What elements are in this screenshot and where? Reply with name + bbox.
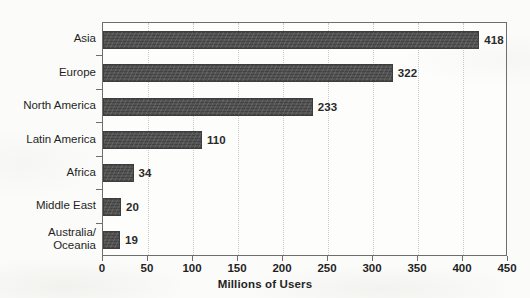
bar-value-label: 20 (126, 201, 139, 213)
bar (103, 31, 479, 49)
bar (103, 131, 202, 149)
x-axis-tick-label: 300 (362, 262, 381, 274)
x-axis-tick-label: 250 (317, 262, 336, 274)
category-label: Europe (0, 66, 96, 79)
x-axis-tick-label: 400 (452, 262, 471, 274)
bar-value-label: 322 (398, 67, 418, 79)
x-axis-tick (102, 256, 103, 261)
y-axis-tick (96, 189, 102, 190)
bar-row: 20 (103, 198, 508, 216)
x-axis-tick-label: 200 (272, 262, 291, 274)
bar (103, 231, 120, 249)
x-axis-tick (462, 256, 463, 261)
y-axis-tick (96, 156, 102, 157)
y-axis-tick (96, 223, 102, 224)
x-axis-tick-label: 150 (227, 262, 246, 274)
bar-row: 322 (103, 64, 508, 82)
bar-value-label: 110 (207, 134, 226, 146)
x-axis-title: Millions of Users (0, 278, 530, 290)
x-axis-tick (327, 256, 328, 261)
bar (103, 164, 134, 182)
bar-value-label: 233 (318, 101, 338, 113)
bar-row: 418 (103, 31, 508, 49)
bar-row: 34 (103, 164, 508, 182)
bar (103, 64, 393, 82)
x-axis-tick-label: 450 (497, 262, 516, 274)
x-axis-tick-label: 350 (407, 262, 426, 274)
x-axis-tick-label: 0 (99, 262, 105, 274)
plot-area: 418322233110342019 (102, 22, 507, 256)
x-axis-tick (147, 256, 148, 261)
bar (103, 98, 313, 116)
category-label: North America (0, 99, 96, 112)
bar-row: 19 (103, 231, 508, 249)
category-label: Africa (0, 166, 96, 179)
category-label: Latin America (0, 133, 96, 146)
bar-row: 110 (103, 131, 508, 149)
y-axis-category-labels: AsiaEuropeNorth AmericaLatin AmericaAfri… (0, 22, 96, 256)
y-axis-tick (96, 122, 102, 123)
x-axis-tick (372, 256, 373, 261)
y-axis-tick (96, 89, 102, 90)
y-axis-tick (96, 55, 102, 56)
x-axis-tick-label: 100 (182, 262, 201, 274)
x-axis-ticks (102, 256, 507, 262)
category-label: Asia (0, 32, 96, 45)
x-axis-tick (507, 256, 508, 261)
bar (103, 198, 121, 216)
bar-row: 233 (103, 98, 508, 116)
category-label: Australia/ Oceania (0, 226, 96, 252)
x-axis-tick-label: 50 (141, 262, 154, 274)
x-axis-tick (417, 256, 418, 261)
category-label: Middle East (0, 199, 96, 212)
bar-value-label: 418 (484, 34, 504, 46)
horizontal-bar-chart: AsiaEuropeNorth AmericaLatin AmericaAfri… (0, 0, 530, 298)
bar-value-label: 34 (139, 167, 152, 179)
bar-value-label: 19 (125, 234, 138, 246)
x-axis-tick (282, 256, 283, 261)
x-axis-tick (192, 256, 193, 261)
x-axis-tick (237, 256, 238, 261)
